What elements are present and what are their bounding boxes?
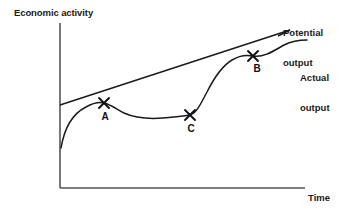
legend-actual-line1: Actual [300,73,330,83]
legend-label-actual-output: Actual output [300,52,330,134]
point-label-c: C [184,123,198,134]
chart-figure: Economic activity Time Potential output … [0,0,354,213]
point-label-b: B [250,63,264,74]
legend-potential-line1: Potential [283,28,323,38]
legend-actual-line2: output [300,103,330,113]
x-axis-title: Time [308,193,330,203]
point-label-a: A [98,111,112,122]
y-axis-title: Economic activity [14,8,93,18]
